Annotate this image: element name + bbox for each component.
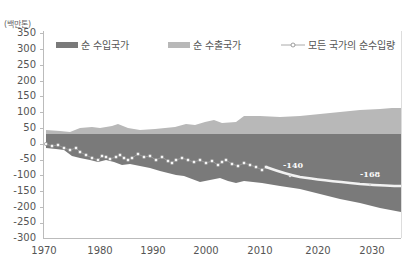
legend-swatch-import	[56, 42, 78, 48]
import-area	[46, 134, 401, 212]
legend-net: 모든 국가의 순수입량	[281, 37, 395, 52]
legend-line-marker-icon	[281, 41, 305, 49]
x-tick: 1970	[24, 245, 64, 256]
legend-import: 순 수입국가	[56, 37, 129, 52]
x-tick: 2000	[186, 245, 226, 256]
legend-label-import: 순 수입국가	[81, 37, 129, 52]
x-tick: 1980	[80, 245, 120, 256]
legend-label-net: 모든 국가의 순수입량	[308, 37, 395, 52]
legend-label-export: 순 수출국가	[193, 37, 241, 52]
marker-2030	[369, 184, 372, 187]
annotation-140: -140	[283, 160, 303, 170]
x-tick: 2020	[298, 245, 338, 256]
legend-swatch-export	[168, 42, 190, 48]
x-tick: 1990	[133, 245, 173, 256]
annotation-168: -168	[360, 169, 380, 179]
export-area	[46, 108, 401, 134]
legend-export: 순 수출국가	[168, 37, 241, 52]
x-tick: 2010	[240, 245, 280, 256]
marker-2014	[289, 175, 292, 178]
x-tick: 2030	[352, 245, 392, 256]
